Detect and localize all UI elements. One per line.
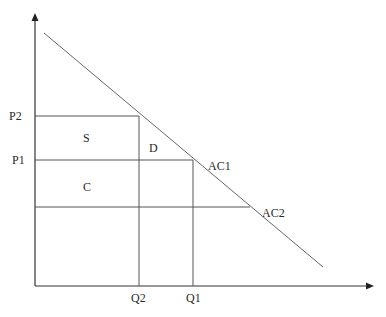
q1-label: Q1	[186, 292, 201, 304]
q2-label: Q2	[131, 292, 146, 304]
region-c-label: C	[83, 181, 91, 193]
p1-label: P1	[12, 154, 25, 166]
p2-label: P2	[9, 110, 22, 122]
region-d-label: D	[149, 142, 158, 154]
region-s-label: S	[83, 132, 90, 144]
ac2-label: AC2	[262, 207, 285, 219]
x-axis-arrow-icon	[366, 283, 374, 290]
y-axis-arrow-icon	[32, 13, 39, 21]
demand-line	[44, 33, 323, 267]
ac1-label: AC1	[208, 160, 231, 172]
diagram-canvas	[0, 0, 386, 317]
